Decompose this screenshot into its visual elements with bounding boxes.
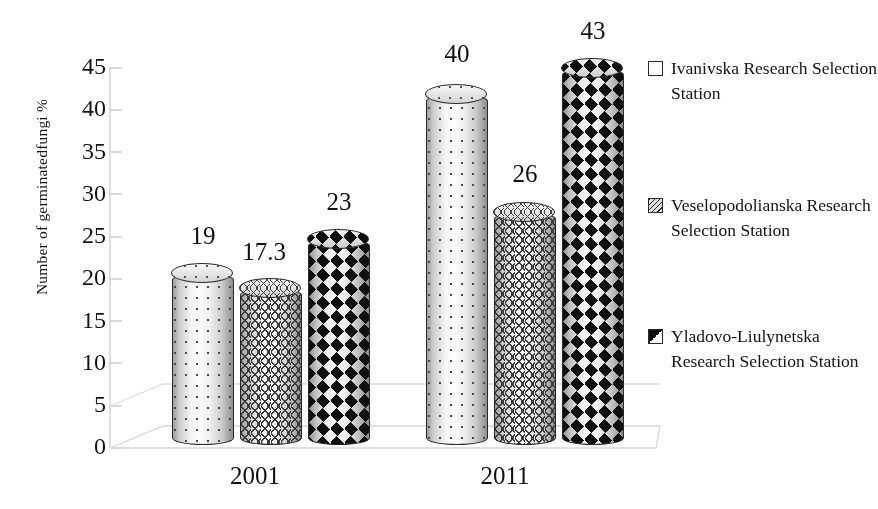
bar-body — [562, 68, 624, 445]
bar-top-ellipse — [561, 58, 623, 78]
legend-label-ivanivska: Ivanivska Research Selection Station — [671, 56, 878, 107]
bar-2011-veselopodolianska — [494, 212, 556, 445]
legend-label-veselopodolianska: Veselopodolianska Research Selection Sta… — [671, 193, 878, 244]
floor-right-edge — [656, 426, 660, 448]
bar-top-ellipse — [239, 278, 301, 298]
y-tick-25: 25 — [66, 223, 106, 247]
y-axis-ticks — [110, 68, 122, 448]
bar-value-2001-veselopodolianska: 17.3 — [226, 238, 302, 266]
y-tick-5: 5 — [66, 392, 106, 416]
bar-2001-veselopodolianska — [240, 288, 302, 445]
y-tick-10: 10 — [66, 350, 106, 374]
bar-2001-ivanivska — [172, 273, 234, 445]
x-category-label-2011: 2011 — [450, 462, 560, 490]
bar-body — [426, 94, 488, 445]
bar-top-ellipse — [493, 202, 555, 222]
bar-value-2011-ivanivska: 40 — [426, 40, 488, 68]
y-axis-title: Number of germinatedfungi % — [33, 47, 51, 347]
bar-value-2011-yladovo: 43 — [562, 17, 624, 45]
bar-top-ellipse — [307, 229, 369, 249]
legend-item-yladovo[interactable]: Yladovo-Liulynetska Research Selection S… — [648, 324, 878, 375]
y-tick-15: 15 — [66, 308, 106, 332]
bar-2001-yladovo — [308, 239, 370, 445]
y-tick-35: 35 — [66, 139, 106, 163]
legend-label-yladovo: Yladovo-Liulynetska Research Selection S… — [671, 324, 878, 375]
bar-top-ellipse — [171, 263, 233, 283]
y-axis-tick-labels: 45 40 35 30 25 20 15 10 5 0 — [58, 0, 106, 509]
legend-key-square-dots-icon — [648, 61, 663, 76]
bar-top-ellipse — [425, 84, 487, 104]
y-tick-40: 40 — [66, 96, 106, 120]
bar-body — [494, 212, 556, 445]
y-tick-45: 45 — [66, 54, 106, 78]
legend-key-square-diamond-icon — [648, 329, 663, 344]
bar-body — [172, 273, 234, 445]
bar-2011-ivanivska — [426, 94, 488, 445]
bar-value-2001-ivanivska: 19 — [172, 222, 234, 250]
y-tick-30: 30 — [66, 181, 106, 205]
y-tick-20: 20 — [66, 265, 106, 289]
x-category-label-2001: 2001 — [200, 462, 310, 490]
legend-item-ivanivska[interactable]: Ivanivska Research Selection Station — [648, 56, 878, 107]
bar-body — [240, 288, 302, 445]
bar-2011-yladovo — [562, 68, 624, 445]
bar-chart: Number of germinatedfungi % 45 40 35 30 … — [0, 0, 878, 509]
bar-body — [308, 239, 370, 445]
bar-value-2011-veselopodolianska: 26 — [494, 160, 556, 188]
y-tick-0: 0 — [66, 434, 106, 458]
bar-value-2001-yladovo: 23 — [308, 188, 370, 216]
legend-item-veselopodolianska[interactable]: Veselopodolianska Research Selection Sta… — [648, 193, 878, 244]
legend-key-square-zigzag-icon — [648, 198, 663, 213]
